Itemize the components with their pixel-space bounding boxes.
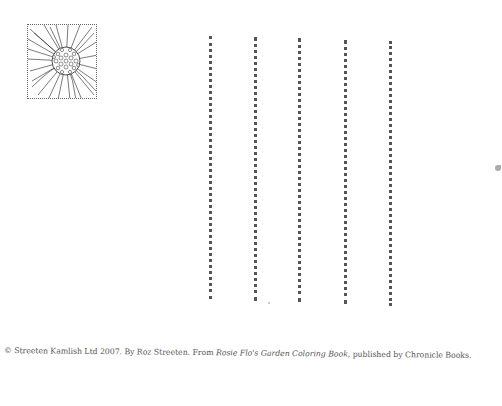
writing-line-4 <box>344 40 350 304</box>
flower-icon <box>28 25 97 99</box>
flower-illustration <box>27 24 97 99</box>
writing-line-1 <box>209 36 215 299</box>
writing-line-2 <box>254 37 260 301</box>
paper-speck <box>268 302 270 304</box>
credit-prefix: © Streeten Kamlish Ltd 2007. By Roz Stre… <box>4 346 216 357</box>
writing-line-3 <box>298 38 304 302</box>
copyright-credit: © Streeten Kamlish Ltd 2007. By Roz Stre… <box>4 346 472 360</box>
book-title: Rosie Flo's Garden Coloring Book <box>216 348 348 358</box>
edge-smudge <box>495 165 501 171</box>
writing-line-5 <box>389 41 395 306</box>
credit-suffix: , published by Chronicle Books. <box>348 350 472 360</box>
